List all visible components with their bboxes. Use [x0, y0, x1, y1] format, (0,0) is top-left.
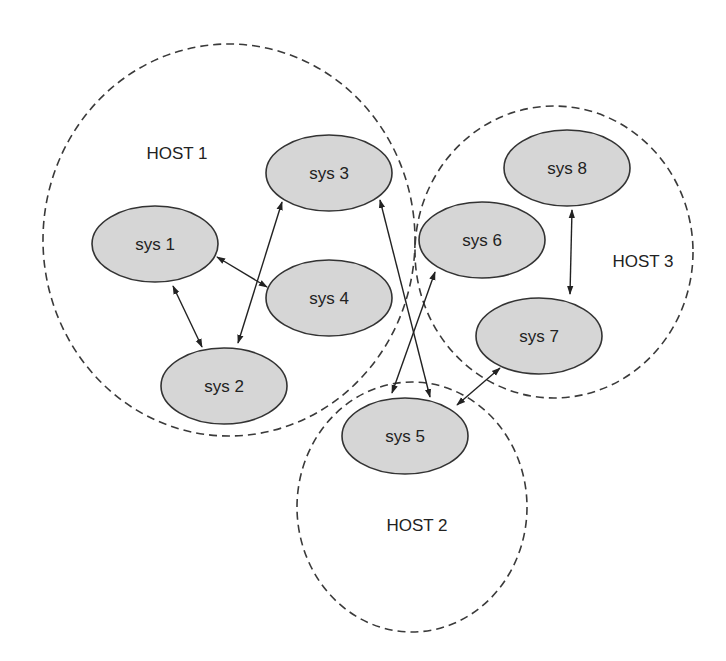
node-sys4: sys 4 — [266, 260, 392, 336]
edge-sys6-sys5-double-arrow-icon — [392, 272, 435, 393]
node-sys2: sys 2 — [161, 348, 287, 424]
node-sys5-label: sys 5 — [385, 427, 425, 446]
edge-sys8-sys7-double-arrow-icon — [570, 210, 572, 294]
node-sys8: sys 8 — [504, 130, 630, 206]
edge-sys2-sys3-double-arrow-icon — [238, 202, 282, 343]
node-sys4-label: sys 4 — [309, 289, 349, 308]
edge-sys1-sys2-double-arrow-icon — [173, 286, 202, 347]
system-nodes: sys 1 sys 2 sys 3 sys 4 sys 5 sys 6 sys … — [92, 130, 630, 474]
node-sys3: sys 3 — [266, 135, 392, 211]
node-sys7: sys 7 — [476, 298, 602, 374]
edge-sys7-sys5-double-arrow-icon — [457, 368, 500, 405]
node-sys3-label: sys 3 — [309, 164, 349, 183]
node-sys2-label: sys 2 — [204, 377, 244, 396]
node-sys5: sys 5 — [342, 398, 468, 474]
node-sys6: sys 6 — [419, 202, 545, 278]
distributed-systems-diagram: HOST 1 HOST 2 HOST 3 sys 1 sys 2 sys 3 s… — [0, 0, 726, 661]
host-1-label: HOST 1 — [146, 144, 207, 163]
node-sys1: sys 1 — [92, 206, 218, 282]
node-sys1-label: sys 1 — [135, 235, 175, 254]
node-sys7-label: sys 7 — [519, 327, 559, 346]
node-sys6-label: sys 6 — [462, 231, 502, 250]
node-sys8-label: sys 8 — [547, 159, 587, 178]
host-2-label: HOST 2 — [386, 516, 447, 535]
host-3-label: HOST 3 — [612, 252, 673, 271]
